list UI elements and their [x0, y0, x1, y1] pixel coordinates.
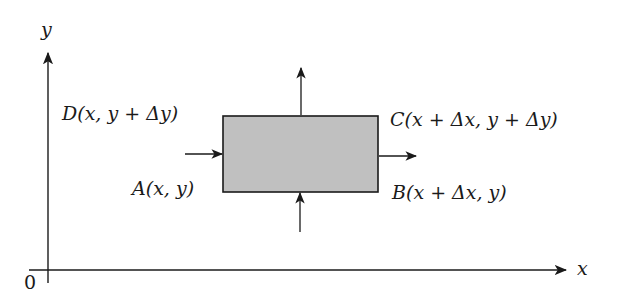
y-axis-label: y: [41, 20, 52, 39]
corner-label-a: A(x, y): [132, 179, 194, 198]
corner-label-c: C(x + Δx, y + Δy): [390, 110, 558, 129]
origin-label: 0: [24, 273, 36, 292]
diagram-canvas: [0, 0, 621, 303]
corner-label-b: B(x + Δx, y): [392, 183, 507, 202]
corner-label-d: D(x, y + Δy): [62, 104, 178, 123]
control-volume-element: [223, 116, 378, 192]
x-axis-label: x: [577, 259, 588, 278]
